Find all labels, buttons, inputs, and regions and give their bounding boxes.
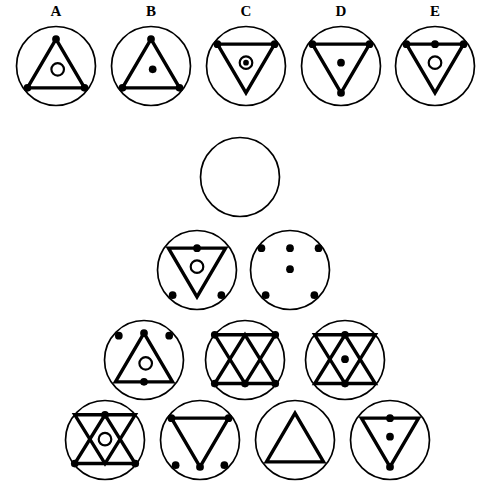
dot-triangle-bottom-mid: [140, 378, 148, 386]
hexagram-down-triangle: [215, 335, 275, 384]
matrix-cell-r3c1: [102, 318, 186, 402]
dot-triangle-bottom-right-vertex: [81, 84, 89, 92]
dot-hex-bottom-mid: [341, 380, 349, 388]
matrix-cell-r3c3: [303, 318, 387, 402]
dot-triangle-top-mid: [431, 40, 439, 48]
matrix-cell-r4c3: [253, 398, 337, 482]
center-filled-dot: [337, 59, 345, 67]
dot-triangle-top-left-vertex: [309, 40, 317, 48]
dot-triangle-top-vertex: [140, 329, 148, 337]
outer-circle: [201, 138, 280, 217]
dot-triangle-top-right-vertex: [225, 414, 233, 422]
dot-hex-bottom-right: [271, 380, 279, 388]
dot-hex-top-right: [271, 331, 279, 339]
option-label-e: E: [423, 3, 447, 19]
dot-triangle-top-vertex: [52, 35, 60, 43]
dot-outer-top-left: [115, 332, 123, 340]
triangle-up-shape: [122, 39, 179, 88]
dot-triangle-bottom-vertex: [337, 89, 345, 97]
dot-triangle-bottom-vertex: [196, 463, 204, 471]
dot-hex-bottom-left: [211, 380, 219, 388]
dot-triangle-top-left-vertex: [258, 244, 266, 252]
dot-outer-bottom-left: [262, 291, 270, 299]
dot-triangle-top-left-vertex: [403, 40, 411, 48]
dot-triangle-top-left-vertex: [168, 414, 176, 422]
dot-hex-top-left: [211, 331, 219, 339]
center-filled-dot: [286, 265, 294, 273]
dot-triangle-top-left-vertex: [214, 40, 222, 48]
center-open-circle: [99, 433, 112, 446]
answer-option-d[interactable]: [299, 24, 383, 108]
dot-hex-bottom-left: [71, 460, 79, 468]
dot-outer-bottom-right: [220, 461, 228, 469]
center-open-circle: [191, 260, 204, 273]
dot-hex-top-mid: [101, 411, 109, 419]
dot-outer-bottom-left: [169, 291, 177, 299]
answer-option-b[interactable]: [109, 24, 193, 108]
triangle-down-shape: [171, 418, 228, 467]
dot-triangle-bottom-right-vertex: [176, 84, 184, 92]
center-open-circle: [429, 56, 442, 69]
option-label-b: B: [139, 3, 163, 19]
dot-triangle-top-vertex: [147, 35, 155, 43]
dot-outer-bottom-right: [217, 291, 225, 299]
dot-outer-top-right: [165, 332, 173, 340]
puzzle-canvas: ABCDE: [0, 0, 483, 487]
dot-triangle-top-right-vertex: [460, 40, 468, 48]
matrix-cell-r3c2: [203, 318, 287, 402]
answer-option-e[interactable]: [393, 24, 477, 108]
option-label-c: C: [234, 3, 258, 19]
center-open-circle: [139, 357, 152, 370]
answer-option-a[interactable]: [14, 24, 98, 108]
dot-hex-top-mid: [341, 331, 349, 339]
matrix-cell-r4c4: [348, 398, 432, 482]
dot-triangle-bottom-left-vertex: [24, 84, 32, 92]
dot-hex-bottom-right: [131, 460, 139, 468]
center-filled-dot: [243, 60, 249, 66]
triangle-down-shape: [312, 44, 369, 93]
dot-outer-bottom-left: [172, 461, 180, 469]
dot-triangle-top-mid: [286, 244, 294, 252]
center-filled-dot: [149, 65, 157, 73]
answer-option-c[interactable]: [204, 24, 288, 108]
dot-triangle-bottom-vertex: [386, 463, 394, 471]
option-label-a: A: [44, 3, 68, 19]
dot-outer-bottom-right: [310, 291, 318, 299]
center-filled-dot: [341, 355, 349, 363]
dot-triangle-top-right-vertex: [271, 40, 279, 48]
dot-hex-bottom-mid: [241, 380, 249, 388]
center-open-circle: [51, 63, 64, 76]
option-label-d: D: [329, 3, 353, 19]
dot-triangle-bottom-left-vertex: [119, 84, 127, 92]
dot-triangle-top-right-vertex: [315, 244, 323, 252]
hexagram-up-triangle: [215, 335, 275, 384]
triangle-up-shape: [266, 413, 323, 462]
dot-triangle-top-mid: [386, 414, 394, 422]
center-filled-dot: [386, 433, 394, 441]
triangle-down-shape: [361, 418, 418, 467]
dot-triangle-top-mid: [193, 244, 201, 252]
matrix-cell-r2c2: [248, 228, 332, 312]
matrix-cell-r2c1: [155, 228, 239, 312]
dot-triangle-top-right-vertex: [366, 40, 374, 48]
matrix-cell-r4c2: [158, 398, 242, 482]
matrix-cell-missing[interactable]: [198, 135, 282, 219]
matrix-cell-r4c1: [63, 398, 147, 482]
